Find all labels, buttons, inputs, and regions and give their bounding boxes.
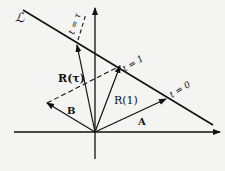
label-B: B [67,105,75,116]
vector-line-diagram: ℒ t = τ t = 1 t = 0 R(τ) R(1) A B [0,0,225,171]
label-R-one: R(1) [114,94,138,107]
vector-Rtau [77,45,95,132]
diagram-canvas: ℒ t = τ t = 1 t = 0 R(τ) R(1) A B [0,0,225,171]
label-t-zero: t = 0 [168,79,193,100]
line-L-label: ℒ [15,10,25,25]
line-L [23,10,213,125]
label-t-one: t = 1 [121,53,145,73]
label-R-tau: R(τ) [58,72,85,85]
label-A: A [137,116,146,127]
